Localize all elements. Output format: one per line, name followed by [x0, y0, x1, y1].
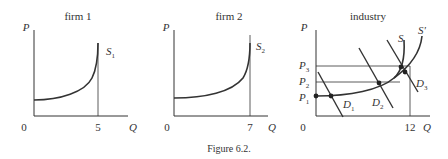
price-p2-label: P2	[298, 75, 310, 90]
firm2-x-label: Q	[268, 121, 276, 133]
firm1-capacity-tick: 5	[95, 121, 101, 133]
supply-S-label: S	[398, 32, 404, 44]
demand-d1-label: D1	[342, 98, 355, 113]
firm2-curve-label: S2	[256, 40, 266, 55]
demand-d2-label: D2	[371, 96, 384, 111]
equilibrium-points	[314, 65, 408, 99]
firm1-y-label: P	[22, 21, 30, 33]
industry-origin: 0	[300, 121, 306, 133]
firm1-supply-curve	[34, 43, 98, 100]
industry-y-label: P	[300, 21, 308, 33]
firm2-supply-curve	[174, 43, 250, 98]
firm2-title: firm 2	[215, 10, 242, 22]
firm2-panel	[174, 30, 268, 116]
firm2-capacity-tick: 7	[247, 121, 253, 133]
figure-6-2: firm 1 P 0 5 Q S1 firm 2 P 0 7 Q S2 indu…	[0, 0, 448, 159]
firm2-origin: 0	[164, 121, 170, 133]
industry-supply-S	[316, 40, 404, 96]
supply-S-prime-label: S'	[418, 24, 427, 36]
industry-title: industry	[350, 10, 387, 22]
industry-x-label: Q	[423, 121, 431, 133]
firm1-title: firm 1	[64, 10, 91, 22]
firm2-y-label: P	[162, 21, 170, 33]
firm1-x-label: Q	[129, 121, 137, 133]
price-p3-label: P3	[298, 59, 310, 74]
firm1-curve-label: S1	[106, 45, 116, 60]
price-p1-label: P1	[298, 91, 310, 106]
firm1-origin: 0	[21, 121, 27, 133]
figure-caption: Figure 6.2.	[207, 143, 251, 154]
firm1-panel	[34, 30, 128, 116]
industry-capacity-tick: 12	[405, 121, 416, 133]
